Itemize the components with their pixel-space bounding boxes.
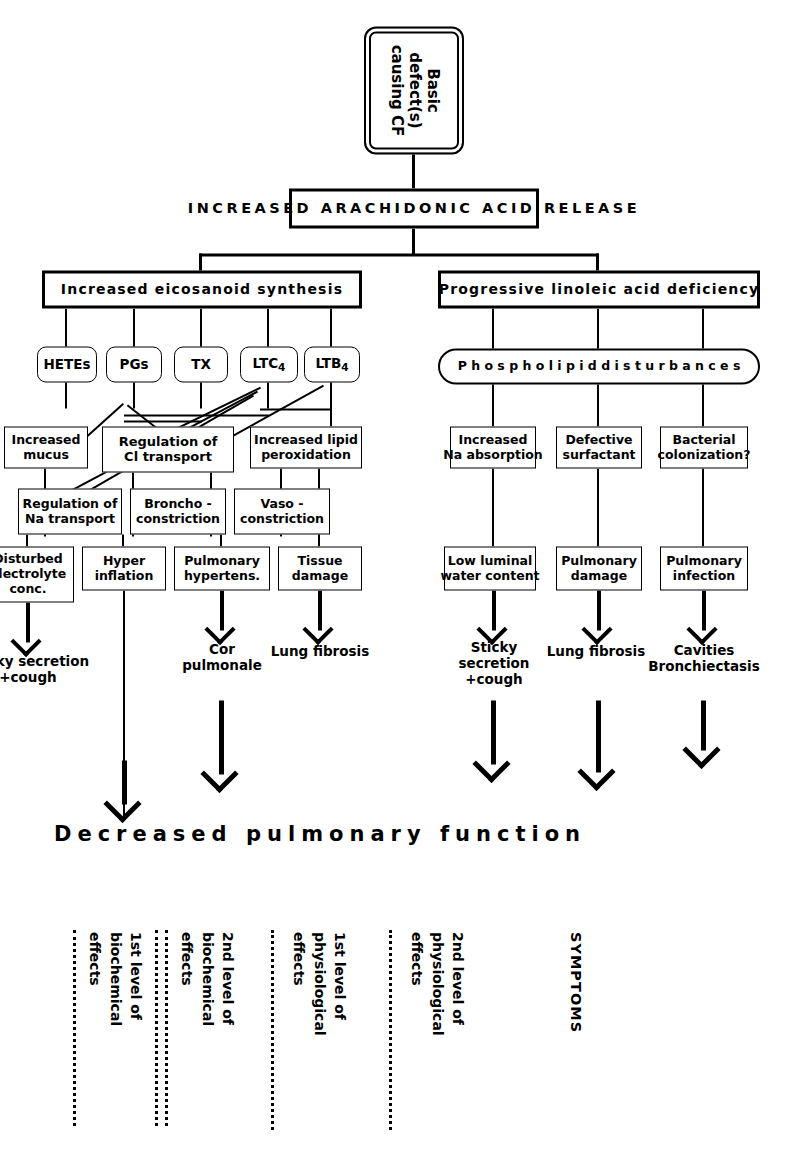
symptom-lung-fibrosis-lower: Lung fibrosis — [270, 634, 370, 668]
connector-linoleic-tap-2 — [597, 308, 599, 348]
node-increased-na-absorption: IncreasedNa absorption — [450, 426, 536, 468]
connector-hetes-out — [65, 382, 67, 408]
node-ltc4: LTC4 — [240, 346, 298, 382]
connector-surf-to-damage — [597, 468, 599, 546]
connector-release-fork — [199, 253, 599, 256]
node-eicosanoid-synthesis: Increased eicosanoid synthesis — [42, 270, 362, 308]
node-ltb4: LTB4 — [304, 346, 360, 382]
connector-eico-tap-tx — [200, 308, 202, 346]
connector-release-out — [413, 228, 416, 254]
connector-pgs-out — [133, 382, 135, 408]
node-broncho-constriction: Broncho -constriction — [130, 488, 226, 534]
connector-na-abs-to-water — [492, 468, 494, 546]
node-tx-label: TX — [191, 356, 211, 372]
outcome-banner-label: Decreased pulmonary function — [54, 821, 586, 847]
connector-phospho-out-1 — [702, 384, 704, 426]
symptom-cor-pulmonale-label: Corpulmonale — [182, 641, 262, 673]
connector-to-linoleic — [596, 253, 599, 271]
node-bacterial-colonization: Bacterialcolonization? — [660, 426, 748, 468]
connector-linoleic-tap-3 — [492, 308, 494, 348]
node-ltb4-label: LTB4 — [315, 355, 348, 372]
connector-eico-tap-ltb4 — [330, 308, 332, 346]
node-bacterial-colonization-label: Bacterialcolonization? — [658, 432, 751, 462]
connector-to-eicosanoid — [199, 253, 202, 271]
connector-rail-1 — [260, 408, 332, 410]
node-defective-surfactant-label: Defectivesurfactant — [562, 432, 635, 462]
node-ltc4-subscript: 4 — [278, 360, 285, 372]
node-disturbed-electrolyte: Disturbedelectrolyteconc. — [0, 546, 74, 602]
node-tissue-damage-label: Tissuedamage — [292, 553, 348, 583]
figure-stage: Basic defect(s) causing CF INCREASED ARA… — [0, 0, 794, 1161]
node-increased-lipid-peroxidation: Increased lipidperoxidation — [250, 426, 362, 468]
connector-eico-tap-hetes — [65, 308, 67, 346]
node-basic-defect-label: Basic defect(s) causing CF — [387, 30, 440, 150]
flowchart-canvas: Basic defect(s) causing CF INCREASED ARA… — [0, 0, 794, 1161]
node-hetes: HETEs — [37, 346, 97, 382]
connector-vaso-to-pulmhyp — [220, 534, 222, 546]
outcome-banner: Decreased pulmonary function — [0, 806, 760, 862]
node-pulmonary-damage: Pulmonarydamage — [556, 546, 642, 590]
connector-rail-2 — [124, 414, 269, 416]
connector-ltb4-out — [330, 382, 332, 426]
node-pgs-label: PGs — [119, 356, 148, 372]
node-low-luminal-water-label: Low luminalwater content — [440, 553, 539, 583]
symptom-lung-fibrosis-upper: Lung fibrosis — [546, 634, 646, 668]
connector-tx-out — [200, 382, 202, 408]
node-low-luminal-water: Low luminalwater content — [444, 546, 536, 590]
symptom-sticky-secretion-top-label: Stickysecretion+cough — [459, 639, 530, 688]
symptom-sticky-secretion-top: Stickysecretion+cough — [446, 634, 542, 692]
connector-bact-to-infection — [702, 468, 704, 546]
node-pulmonary-infection: Pulmonaryinfection — [660, 546, 748, 590]
node-hyper-inflation-label: Hyperinflation — [95, 553, 154, 583]
connector-broncho-to-hyper — [122, 534, 124, 546]
connector-ltc4-out — [267, 382, 269, 408]
node-regulation-na-transport: Regulation ofNa transport — [18, 488, 122, 534]
node-regulation-cl-transport: Regulation ofCl transport — [102, 426, 234, 472]
node-pulmonary-hypertension: Pulmonaryhypertens. — [174, 546, 270, 590]
connector-eico-tap-ltc4 — [267, 308, 269, 346]
node-increased-mucus: Increasedmucus — [4, 426, 88, 468]
node-basic-defect: Basic defect(s) causing CF — [364, 26, 464, 154]
node-tx: TX — [174, 346, 228, 382]
node-tissue-damage: Tissuedamage — [278, 546, 362, 590]
node-hyper-inflation: Hyperinflation — [82, 546, 166, 590]
node-phospholipid-disturbances-label: P h o s p h o l i p i d d i s t u r b a … — [458, 359, 741, 374]
node-hetes-label: HETEs — [44, 356, 91, 372]
connector-phospho-out-2 — [597, 384, 599, 426]
node-pulmonary-damage-label: Pulmonarydamage — [561, 553, 637, 583]
node-pulmonary-infection-label: Pulmonaryinfection — [666, 553, 742, 583]
node-pgs: PGs — [106, 346, 162, 382]
symptom-lung-fibrosis-lower-label: Lung fibrosis — [271, 643, 370, 659]
node-ltb4-subscript: 4 — [341, 360, 348, 372]
connector-eico-tap-pgs — [133, 308, 135, 346]
node-linoleic-deficiency-label: Progressive linoleic acid deficiency — [439, 281, 760, 298]
symptom-cavities-bronchiectasis-label: CavitiesBronchiectasis — [648, 642, 760, 674]
node-vaso-constriction-label: Vaso -constriction — [240, 496, 324, 526]
symptom-sticky-secretion-upper: Sticky secretion+cough — [0, 646, 70, 692]
connector-rail-3 — [124, 420, 202, 422]
node-vaso-constriction: Vaso -constriction — [234, 488, 330, 534]
node-defective-surfactant: Defectivesurfactant — [556, 426, 642, 468]
node-regulation-cl-transport-label: Regulation ofCl transport — [119, 434, 218, 465]
connector-phospho-out-3 — [492, 384, 494, 426]
node-increased-mucus-label: Increasedmucus — [12, 432, 81, 462]
node-arachidonic-release: INCREASED ARACHIDONIC ACID RELEASE — [289, 188, 539, 228]
symptom-cavities-bronchiectasis: CavitiesBronchiectasis — [648, 634, 760, 682]
node-pulmonary-hypertension-label: Pulmonaryhypertens. — [184, 553, 260, 583]
connector-linoleic-tap-1 — [702, 308, 704, 348]
node-linoleic-deficiency: Progressive linoleic acid deficiency — [438, 270, 760, 308]
node-arachidonic-release-label: INCREASED ARACHIDONIC ACID RELEASE — [188, 199, 640, 216]
node-eicosanoid-synthesis-label: Increased eicosanoid synthesis — [61, 281, 343, 298]
symptom-sticky-secretion-upper-label: Sticky secretion+cough — [0, 653, 89, 685]
connector-root-to-release — [413, 154, 416, 188]
node-ltc4-label: LTC4 — [253, 355, 286, 372]
symptom-cor-pulmonale: Corpulmonale — [180, 634, 264, 680]
node-increased-na-absorption-label: IncreasedNa absorption — [443, 432, 543, 462]
node-phospholipid-disturbances: P h o s p h o l i p i d d i s t u r b a … — [438, 348, 760, 384]
node-increased-lipid-peroxidation-label: Increased lipidperoxidation — [254, 432, 358, 462]
node-broncho-constriction-label: Broncho -constriction — [136, 496, 220, 526]
node-disturbed-electrolyte-label: Disturbedelectrolyteconc. — [0, 552, 66, 596]
symptom-lung-fibrosis-upper-label: Lung fibrosis — [547, 643, 646, 659]
connector-regna-to-disturbed — [26, 534, 28, 546]
node-regulation-na-transport-label: Regulation ofNa transport — [23, 496, 118, 526]
